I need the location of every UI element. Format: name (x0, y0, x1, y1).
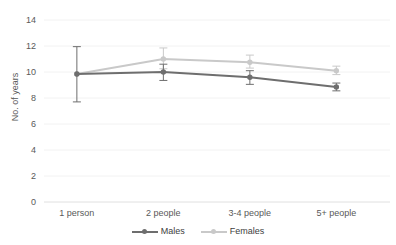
data-point (74, 71, 79, 76)
y-axis-tick-label: 4 (8, 145, 36, 155)
y-axis-tick-label: 6 (8, 119, 36, 129)
data-point (334, 68, 339, 73)
legend-item-males[interactable]: Males (132, 226, 185, 237)
legend-marker-males-icon (132, 227, 158, 236)
legend-label-females: Females (230, 226, 265, 237)
y-axis-tick-label: 10 (8, 67, 36, 77)
legend-label-males: Males (161, 226, 185, 237)
legend-dot-males (142, 229, 147, 234)
data-point (247, 60, 252, 65)
y-axis-tick-label: 2 (8, 171, 36, 181)
data-point (161, 69, 166, 74)
x-axis-category-label: 1 person (37, 208, 117, 219)
gridlines (44, 20, 390, 202)
x-axis-category-label: 2 people (123, 208, 203, 219)
legend-marker-females-icon (201, 227, 227, 236)
data-point (247, 75, 252, 80)
x-axis-category-label: 3-4 people (210, 208, 290, 219)
legend-dot-females (211, 229, 216, 234)
series-layer (73, 47, 341, 102)
series-line-males (77, 72, 337, 87)
chart-legend: Males Females (0, 226, 396, 237)
x-axis-category-label: 5+ people (296, 208, 376, 219)
legend-item-females[interactable]: Females (201, 226, 265, 237)
y-axis-tick-label: 0 (8, 197, 36, 207)
data-point (161, 56, 166, 61)
line-chart: No. of years 14121086420 1 person2 peopl… (0, 0, 396, 245)
y-axis-tick-label: 12 (8, 41, 36, 51)
y-axis-tick-label: 14 (8, 15, 36, 25)
data-point (334, 84, 339, 89)
y-axis-tick-label: 8 (8, 93, 36, 103)
